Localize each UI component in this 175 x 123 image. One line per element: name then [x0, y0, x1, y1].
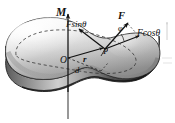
label-force: F: [117, 10, 125, 21]
label-origin: O: [60, 55, 67, 65]
label-angle-phi: φ: [118, 23, 123, 33]
label-force-tangential: Fsinθ: [65, 19, 87, 29]
cropped-edge-artifact: [162, 22, 172, 63]
label-point-p: P: [103, 47, 108, 56]
label-force-radial: Fcosθ: [136, 28, 160, 38]
diagram-canvas: M F Fsinθ Fcosθ φ O r d P: [0, 0, 175, 123]
force-construction-line: [128, 24, 136, 33]
label-moment-axis: M: [55, 6, 67, 18]
physics-diagram: M F Fsinθ Fcosθ φ O r d P: [0, 0, 175, 123]
label-radius-vector: r: [83, 54, 87, 64]
